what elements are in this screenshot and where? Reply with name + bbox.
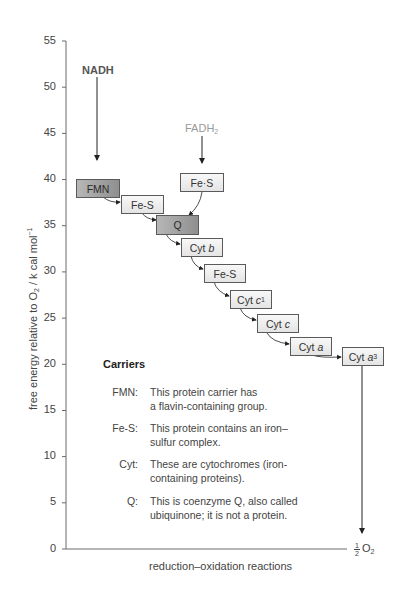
carrier-italic: b xyxy=(208,242,214,254)
arrow-cytb-fes xyxy=(191,256,203,269)
carrier-label: Fe-S xyxy=(131,199,154,211)
carrier-fe-s-fadh2: Fe·S xyxy=(180,173,224,192)
y-label-prefix: free energy relative to O xyxy=(27,292,39,410)
legend-line-2: sulfur complex. xyxy=(150,435,310,449)
carrier-label: Cyt xyxy=(299,341,315,353)
legend-desc: This protein contains an iron– sulfur co… xyxy=(150,421,310,449)
carrier-italic: a xyxy=(317,341,323,353)
y-axis-label: free energy relative to O2 / k cal mol−1 xyxy=(26,228,40,410)
arrow-fes-cytc1 xyxy=(214,282,229,296)
fadh2-label: FADH2 xyxy=(185,122,218,135)
fraction-half: 12 xyxy=(354,542,360,557)
carrier-label: Cyt xyxy=(266,318,282,330)
carrier-cyt-c: Cyt c xyxy=(257,314,299,333)
y-axis-ticks xyxy=(62,41,66,549)
legend-item-fmn: FMN: This protein carrier has a flavin-c… xyxy=(88,385,328,415)
y-tick-10: 10 xyxy=(36,449,56,461)
legend-key: Fe-S: xyxy=(88,421,138,435)
carrier-cyt-c1: Cyt c1 xyxy=(230,290,272,309)
carrier-label: Fe-S xyxy=(214,268,237,280)
arrow-fadh-fes-q xyxy=(189,192,202,215)
carrier-sub: 1 xyxy=(261,296,265,303)
legend-key: Cyt: xyxy=(88,457,138,471)
y-label-suffix: / k cal mol xyxy=(27,236,39,289)
legend-item-fe-s: Fe-S: This protein contains an iron– sul… xyxy=(88,421,328,451)
carrier-fe-s-1: Fe-S xyxy=(121,195,164,214)
carrier-label: Q xyxy=(173,219,181,231)
y-tick-50: 50 xyxy=(36,80,56,92)
legend-item-cyt: Cyt: These are cytochromes (iron- contai… xyxy=(88,457,328,487)
legend-item-q: Q: This is coenzyme Q, also called ubiqu… xyxy=(88,494,328,524)
legend-line-1: This protein carrier has xyxy=(150,385,310,399)
carrier-label: Cyt xyxy=(190,242,206,254)
carrier-label: FMN xyxy=(87,183,110,195)
carrier-italic: c xyxy=(285,318,290,330)
carrier-sub: 3 xyxy=(373,353,377,360)
legend-title: Carriers xyxy=(103,358,145,370)
y-label-sub: 2 xyxy=(33,288,40,292)
arrow-cytc1-cytc xyxy=(240,308,256,320)
legend-desc: This protein carrier has a flavin-contai… xyxy=(150,385,310,413)
legend-line-2: ubiquinone; it is not a protein. xyxy=(150,508,310,522)
y-tick-45: 45 xyxy=(36,126,56,138)
y-tick-0: 0 xyxy=(36,542,56,554)
legend-desc: This is coenzyme Q, also called ubiquino… xyxy=(150,494,310,522)
arrow-q-cytb xyxy=(166,234,180,244)
arrow-fes-q xyxy=(142,213,156,220)
y-tick-5: 5 xyxy=(36,495,56,507)
carrier-cyt-a3: Cyt a3 xyxy=(342,347,384,366)
carrier-label: Cyt xyxy=(349,351,365,363)
carrier-cyt-b: Cyt b xyxy=(181,238,223,257)
arrow-cytc-cyta xyxy=(267,333,289,344)
legend-desc: These are cytochromes (iron- containing … xyxy=(150,457,310,485)
carrier-cyt-a: Cyt a xyxy=(290,337,332,356)
legend-key: Q: xyxy=(88,494,138,508)
legend-line-1: This is coenzyme Q, also called xyxy=(150,494,310,508)
legend-key: FMN: xyxy=(88,385,138,399)
carrier-fe-s-2: Fe-S xyxy=(204,264,246,283)
carrier-label: Cyt xyxy=(237,294,253,306)
legend-line-2: a flavin-containing group. xyxy=(150,399,310,413)
frac-num: 1 xyxy=(354,542,360,550)
legend-line-2: containing proteins). xyxy=(150,471,310,485)
fadh2-main: FADH xyxy=(185,122,214,134)
o2-sub: 2 xyxy=(370,548,374,555)
nadh-label: NADH xyxy=(82,64,114,76)
x-axis-label: reduction–oxidation reactions xyxy=(149,560,292,572)
fadh2-sub: 2 xyxy=(214,128,218,135)
half-o2-label: 12O2 xyxy=(354,542,374,557)
carrier-fmn: FMN xyxy=(76,179,120,198)
legend-line-1: These are cytochromes (iron- xyxy=(150,457,310,471)
carrier-label: Fe·S xyxy=(191,177,214,189)
frac-den: 2 xyxy=(354,550,360,557)
legend-line-1: This protein contains an iron– xyxy=(150,421,310,435)
y-label-sup: −1 xyxy=(26,228,33,236)
carrier-q: Q xyxy=(156,215,199,235)
y-tick-40: 40 xyxy=(36,172,56,184)
y-tick-55: 55 xyxy=(36,34,56,46)
